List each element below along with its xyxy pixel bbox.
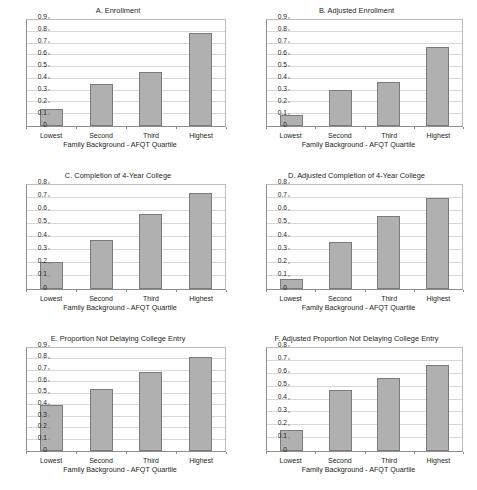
y-tick-mark xyxy=(288,411,290,412)
y-tick-label: 0 xyxy=(43,283,47,290)
y-tick-label: 0.6 xyxy=(278,48,287,55)
x-tick-mark xyxy=(176,127,177,129)
x-tick-label: Second xyxy=(315,456,364,465)
y-tick-mark xyxy=(288,209,290,210)
bar-slot xyxy=(316,348,365,451)
y-tick-mark xyxy=(288,102,290,103)
x-tick-label: Highest xyxy=(176,456,226,465)
y-tick-label: 0.2 xyxy=(38,257,47,264)
plot-wrapper: 00.10.20.30.40.50.60.70.8LowestSecondThi… xyxy=(266,347,463,452)
y-tick-label: 0.5 xyxy=(38,217,47,224)
y-axis: 00.10.20.30.40.50.60.70.8 xyxy=(266,347,290,452)
y-tick-mark xyxy=(48,42,50,43)
bar-slot xyxy=(176,348,226,451)
panel-e: E. Proportion Not Delaying College Entry… xyxy=(0,328,240,490)
bar-highest xyxy=(189,193,212,289)
y-tick-mark xyxy=(48,416,50,417)
y-tick-label: 0.6 xyxy=(38,375,47,382)
bar-slot xyxy=(126,348,176,451)
y-tick-mark xyxy=(48,346,50,347)
x-tick-mark xyxy=(266,127,267,129)
x-tick-mark xyxy=(463,452,464,454)
y-tick-label: 0.5 xyxy=(278,217,287,224)
y-tick-label: 0.1 xyxy=(278,432,287,439)
x-tick-mark xyxy=(315,452,316,454)
x-tick-label: Highest xyxy=(414,294,463,303)
y-tick-label: 0.4 xyxy=(278,393,287,400)
x-tick-mark xyxy=(226,290,227,292)
y-tick-label: 0.1 xyxy=(38,108,47,115)
bar-second xyxy=(90,240,113,289)
bar-series xyxy=(267,185,462,289)
panel-d: D. Adjusted Completion of 4-Year College… xyxy=(240,165,477,328)
bar-second xyxy=(90,84,113,126)
x-tick-mark xyxy=(266,452,267,454)
x-tick-label: Third xyxy=(365,456,414,465)
y-tick-label: 0.1 xyxy=(38,433,47,440)
y-tick-label: 0 xyxy=(283,120,287,127)
x-tick-mark xyxy=(414,452,415,454)
y-tick-mark xyxy=(288,385,290,386)
x-axis-title: Family Background - AFQT Quartile xyxy=(4,140,236,149)
x-tick-mark xyxy=(414,290,415,292)
x-tick-label: Third xyxy=(365,294,414,303)
y-tick-mark xyxy=(288,90,290,91)
y-tick-mark xyxy=(288,359,290,360)
y-tick-label: 0.1 xyxy=(278,270,287,277)
y-tick-label: 0.2 xyxy=(278,419,287,426)
bar-series xyxy=(267,348,462,451)
x-tick-mark xyxy=(76,290,77,292)
bar-slot xyxy=(413,20,462,126)
multi-panel-bar-chart-figure: A. Enrollment00.10.20.30.40.50.60.70.80.… xyxy=(0,0,477,490)
bar-second xyxy=(329,242,352,289)
bar-highest xyxy=(426,47,449,126)
y-tick-mark xyxy=(48,66,50,67)
x-tick-label: Second xyxy=(315,294,364,303)
x-tick-mark xyxy=(226,127,227,129)
x-tick-label: Lowest xyxy=(26,294,76,303)
y-tick-mark xyxy=(48,392,50,393)
y-tick-mark xyxy=(288,236,290,237)
y-tick-label: 0.6 xyxy=(278,366,287,373)
bar-second xyxy=(90,389,113,451)
y-tick-label: 0 xyxy=(283,445,287,452)
y-tick-label: 0.4 xyxy=(38,230,47,237)
y-tick-label: 0.8 xyxy=(38,352,47,359)
x-tick-label: Highest xyxy=(176,294,226,303)
x-axis-title: Family Background - AFQT Quartile xyxy=(244,465,473,474)
bar-slot xyxy=(365,20,414,126)
x-tick-label: Highest xyxy=(176,131,226,140)
x-tick-mark xyxy=(76,127,77,129)
bar-second xyxy=(329,90,352,126)
x-axis-title: Family Background - AFQT Quartile xyxy=(244,303,473,312)
y-tick-label: 0.4 xyxy=(278,230,287,237)
y-tick-mark xyxy=(288,18,290,19)
x-axis-title: Family Background - AFQT Quartile xyxy=(4,303,236,312)
y-tick-mark xyxy=(288,78,290,79)
y-tick-mark xyxy=(48,114,50,115)
y-tick-label: 0.3 xyxy=(38,410,47,417)
panel-title: F. Adjusted Proportion Not Delaying Coll… xyxy=(240,334,473,344)
x-tick-mark xyxy=(315,290,316,292)
bar-third xyxy=(377,378,400,451)
x-tick-label: Highest xyxy=(414,456,463,465)
y-tick-label: 0.3 xyxy=(38,243,47,250)
plot-wrapper: 00.10.20.30.40.50.60.70.80.9LowestSecond… xyxy=(26,19,226,127)
y-tick-label: 0.7 xyxy=(38,363,47,370)
y-tick-mark xyxy=(288,222,290,223)
y-tick-label: 0.9 xyxy=(278,12,287,19)
y-tick-label: 0.5 xyxy=(38,60,47,67)
y-tick-label: 0.6 xyxy=(38,48,47,55)
bar-slot xyxy=(126,185,176,289)
y-tick-label: 0.7 xyxy=(38,190,47,197)
y-tick-label: 0.1 xyxy=(38,270,47,277)
y-tick-label: 0.8 xyxy=(278,177,287,184)
x-tick-mark xyxy=(315,127,316,129)
bar-slot xyxy=(365,185,414,289)
y-tick-mark xyxy=(288,249,290,250)
panel-b: B. Adjusted Enrollment00.10.20.30.40.50.… xyxy=(240,0,477,165)
y-tick-mark xyxy=(48,209,50,210)
y-tick-mark xyxy=(48,369,50,370)
bar-second xyxy=(329,390,352,451)
bar-highest xyxy=(426,365,449,451)
